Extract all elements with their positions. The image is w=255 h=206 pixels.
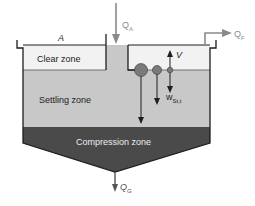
compression-zone-label: Compression zone xyxy=(76,137,151,147)
area-label: A xyxy=(57,33,64,43)
sedimentation-tank-diagram: QA QF A Clear zone Settling zone Compres… xyxy=(0,0,255,206)
inflow-arrow-head xyxy=(112,34,120,44)
compression-zone xyxy=(23,127,210,172)
effluent-pipe xyxy=(205,33,222,45)
small-particle xyxy=(167,67,173,73)
inflow-label: QA xyxy=(122,20,133,32)
upflow-velocity-label: V xyxy=(176,50,183,60)
large-particle xyxy=(135,64,148,77)
sludge-label: QG xyxy=(120,182,132,194)
settling-zone-label: Settling zone xyxy=(39,95,91,105)
medium-particle xyxy=(153,66,162,75)
effluent-label: QF xyxy=(234,29,245,41)
effluent-arrow-head xyxy=(222,29,232,37)
sludge-arrow-head xyxy=(112,184,118,192)
clear-zone-label: Clear zone xyxy=(37,54,81,64)
